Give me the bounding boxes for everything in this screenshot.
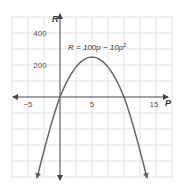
tick-200: 200 [33, 61, 47, 70]
tick-neg5: −5 [23, 100, 33, 109]
parabola-left-tail [37, 97, 60, 178]
chart-svg: R P 400 200 −5 5 15 R = 100p − 10p2 [0, 0, 179, 192]
tick-15: 15 [150, 100, 159, 109]
tick-400: 400 [33, 29, 47, 38]
y-axis-label: R [52, 14, 59, 24]
parabola-right-tail [124, 97, 147, 178]
x-axis-label: P [165, 98, 172, 108]
equation-exponent: 2 [123, 42, 126, 48]
equation-main: R = 100p − 10p [68, 43, 124, 52]
equation-label: R = 100p − 10p2 [68, 42, 126, 52]
tick-5: 5 [90, 100, 95, 109]
